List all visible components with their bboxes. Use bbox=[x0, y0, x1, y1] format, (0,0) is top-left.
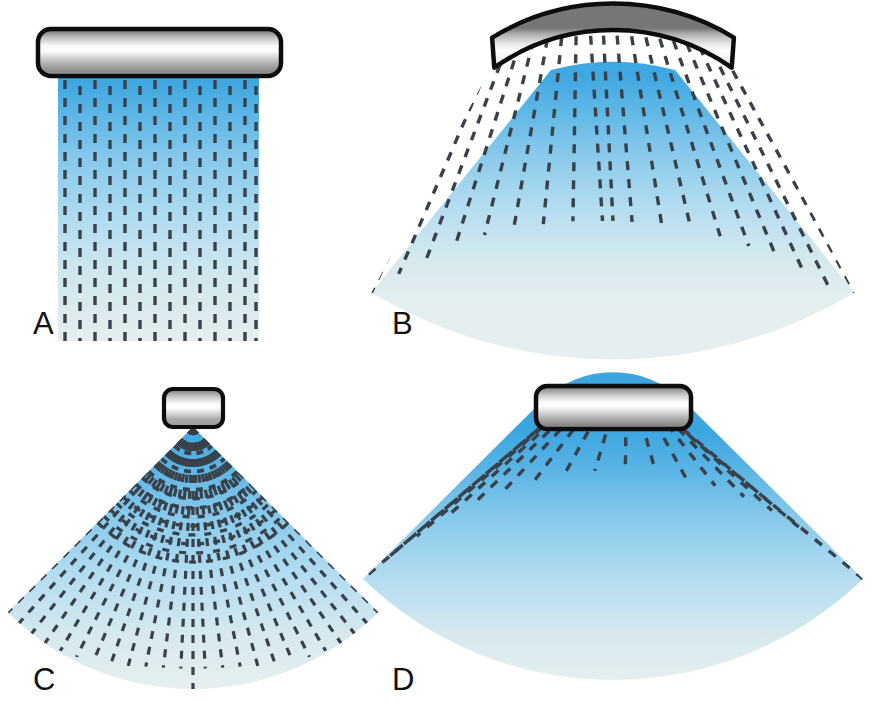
panel-d-transducer bbox=[536, 386, 691, 429]
panel-label-c: C bbox=[33, 662, 55, 697]
panel-c-transducer bbox=[164, 389, 223, 427]
panel-c-phased-array: C bbox=[8, 389, 379, 697]
ultrasound-transducer-figure: A bbox=[0, 0, 875, 722]
panel-label-a: A bbox=[33, 306, 54, 341]
panel-a-beam-field bbox=[58, 78, 259, 341]
panel-label-d: D bbox=[392, 662, 414, 697]
panel-a-linear-array: A bbox=[33, 29, 281, 341]
panel-a-transducer bbox=[38, 29, 281, 76]
panel-b-curved-array: B bbox=[371, 4, 854, 360]
panel-d-vector-array: D bbox=[363, 372, 863, 697]
figure-canvas: A bbox=[0, 0, 875, 722]
panel-label-b: B bbox=[392, 306, 413, 341]
panel-b-beam-field bbox=[371, 62, 854, 360]
